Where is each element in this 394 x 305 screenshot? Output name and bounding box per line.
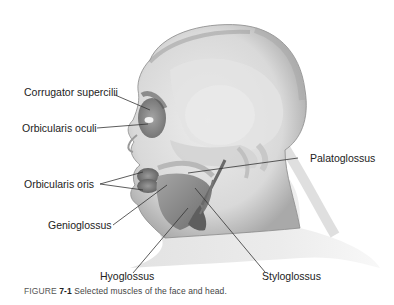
eye — [145, 117, 154, 123]
label-orbicularis-oris: Orbicularis oris — [24, 178, 94, 190]
label-corrugator-supercilii: Corrugator supercilii — [24, 86, 118, 98]
label-styloglossus: Styloglossus — [262, 270, 321, 282]
label-orbicularis-oculi: Orbicularis oculi — [22, 122, 97, 134]
caption-text: Selected muscles of the face and head. — [74, 286, 227, 296]
figure-caption: FIGURE 7-1 Selected muscles of the face … — [24, 286, 227, 296]
caption-number: 7-1 — [59, 286, 72, 296]
label-genioglossus: Genioglossus — [48, 219, 112, 231]
orbicularis-oris-muscle-lower — [137, 179, 159, 193]
caption-prefix: FIGURE — [24, 286, 57, 296]
label-hyoglossus: Hyoglossus — [100, 270, 154, 282]
label-palatoglossus: Palatoglossus — [310, 152, 375, 164]
